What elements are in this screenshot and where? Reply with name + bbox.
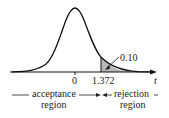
acceptance-label-line2: region (41, 99, 67, 110)
rejection-label-line1: rejection (114, 88, 149, 99)
tail-area-label: 0.10 (120, 52, 138, 63)
axis-arrow-icon (150, 70, 157, 75)
rejection-label-line2: region (120, 99, 146, 110)
t-distribution-diagram: 0.10 0 1.372 t acceptance region rejecti… (0, 0, 169, 118)
tick-label-zero: 0 (72, 75, 77, 86)
acceptance-arrow-icon (96, 93, 101, 97)
axis-label-t: t (154, 75, 157, 86)
acceptance-label-line1: acceptance (32, 88, 76, 99)
tick-label-critical: 1.372 (92, 75, 115, 86)
